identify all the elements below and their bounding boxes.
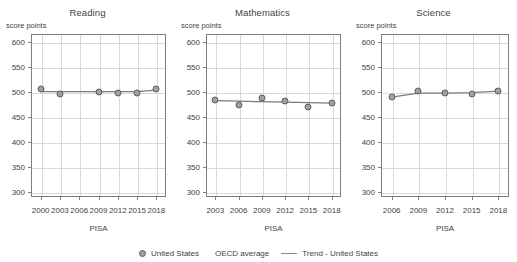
x-tick-mark: [262, 197, 263, 200]
y-tick-mark: [28, 42, 31, 43]
y-tick-label: 500: [0, 87, 25, 96]
y-tick-mark: [378, 92, 381, 93]
y-tick-mark: [203, 117, 206, 118]
data-point-marker: [37, 86, 44, 93]
panel-title-reading: Reading: [0, 6, 175, 20]
x-tick-mark: [285, 197, 286, 200]
y-tick-label: 600: [350, 37, 375, 46]
x-tick-mark: [137, 197, 138, 200]
data-point-marker: [258, 95, 265, 102]
solid-line-marker-icon: [281, 253, 297, 255]
y-tick-mark: [378, 142, 381, 143]
x-tick-mark: [498, 197, 499, 200]
x-tick-mark: [99, 197, 100, 200]
x-axis-title: PISA: [264, 224, 282, 233]
y-tick-label: 500: [350, 87, 375, 96]
y-tick-label: 400: [175, 137, 200, 146]
plot-wrapper-reading: 3003504004505005506002000200320062009201…: [0, 32, 175, 247]
data-point-marker: [134, 90, 141, 97]
legend-label-oecd-average: OECD average: [215, 249, 269, 258]
legend-item-united-states: United States: [139, 249, 199, 258]
y-axis-unit-science: score points: [350, 20, 517, 32]
data-point-marker: [305, 103, 312, 110]
data-point-marker: [468, 90, 475, 97]
x-tick-mark: [60, 197, 61, 200]
x-tick-mark: [118, 197, 119, 200]
y-tick-mark: [203, 192, 206, 193]
y-tick-mark: [203, 167, 206, 168]
y-tick-mark: [28, 192, 31, 193]
y-tick-mark: [28, 142, 31, 143]
y-tick-mark: [203, 142, 206, 143]
data-point-marker: [442, 90, 449, 97]
trend-polyline: [215, 101, 331, 104]
y-tick-label: 400: [0, 137, 25, 146]
panel-title-mathematics: Mathematics: [175, 6, 350, 20]
x-tick-label: 2015: [463, 206, 481, 215]
y-tick-label: 600: [175, 37, 200, 46]
y-tick-mark: [28, 67, 31, 68]
x-tick-label: 2015: [128, 206, 146, 215]
x-tick-label: 2012: [109, 206, 127, 215]
y-tick-mark: [203, 92, 206, 93]
data-point-marker: [495, 87, 502, 94]
legend-item-trend-united-states: Trend - United States: [281, 249, 378, 258]
y-axis-unit-mathematics: score points: [175, 20, 350, 32]
y-tick-label: 550: [175, 62, 200, 71]
data-point-marker: [212, 97, 219, 104]
y-tick-label: 550: [0, 62, 25, 71]
x-tick-mark: [308, 197, 309, 200]
data-point-marker: [388, 94, 395, 101]
y-tick-mark: [28, 117, 31, 118]
data-point-marker: [235, 101, 242, 108]
x-tick-label: 2003: [206, 206, 224, 215]
x-tick-mark: [472, 197, 473, 200]
panel-title-science: Science: [350, 6, 517, 20]
y-tick-mark: [203, 42, 206, 43]
x-tick-mark: [41, 197, 42, 200]
x-tick-mark: [332, 197, 333, 200]
y-axis-unit-reading: score points: [0, 20, 175, 32]
x-tick-mark: [79, 197, 80, 200]
data-point-marker: [153, 86, 160, 93]
legend-label-trend-united-states: Trend - United States: [302, 249, 378, 258]
y-tick-label: 350: [350, 162, 375, 171]
y-tick-label: 450: [175, 112, 200, 121]
y-tick-mark: [378, 42, 381, 43]
y-tick-label: 350: [175, 162, 200, 171]
legend-item-oecd-average: OECD average: [215, 249, 265, 258]
panel-mathematics: Mathematics score points 300350400450500…: [175, 6, 350, 247]
x-tick-label: 2012: [436, 206, 454, 215]
data-point-marker: [95, 88, 102, 95]
y-tick-label: 450: [350, 112, 375, 121]
x-tick-mark: [215, 197, 216, 200]
y-tick-mark: [378, 167, 381, 168]
data-point-marker: [114, 89, 121, 96]
x-axis-title: PISA: [436, 224, 454, 233]
x-tick-mark: [445, 197, 446, 200]
x-axis-title: PISA: [89, 224, 107, 233]
x-tick-label: 2003: [51, 206, 69, 215]
x-tick-label: 2006: [383, 206, 401, 215]
x-tick-label: 2009: [90, 206, 108, 215]
y-tick-label: 400: [350, 137, 375, 146]
pisa-score-trend-figure: Reading score points 3003504004505005506…: [0, 0, 517, 262]
data-point-marker: [328, 99, 335, 106]
y-tick-label: 350: [0, 162, 25, 171]
y-tick-label: 600: [0, 37, 25, 46]
y-tick-label: 450: [0, 112, 25, 121]
plot-wrapper-mathematics: 3003504004505005506002003200620092012201…: [175, 32, 350, 247]
y-tick-mark: [203, 67, 206, 68]
y-tick-label: 500: [175, 87, 200, 96]
data-point-marker: [415, 87, 422, 94]
panel-reading: Reading score points 3003504004505005506…: [0, 6, 175, 247]
data-point-marker: [282, 98, 289, 105]
y-tick-label: 300: [175, 187, 200, 196]
y-tick-label: 300: [0, 187, 25, 196]
y-tick-mark: [28, 167, 31, 168]
panel-row: Reading score points 3003504004505005506…: [0, 0, 517, 247]
y-tick-label: 300: [350, 187, 375, 196]
filled-circle-marker-icon: [139, 250, 146, 257]
panel-science: Science score points 3003504004505005506…: [350, 6, 517, 247]
x-tick-label: 2018: [489, 206, 507, 215]
